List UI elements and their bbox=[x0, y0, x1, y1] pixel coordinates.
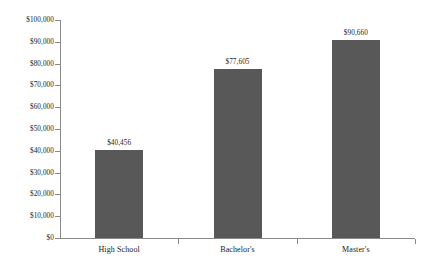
y-axis-tick-mark bbox=[55, 216, 60, 217]
y-axis-tick-label: $70,000 bbox=[30, 81, 54, 89]
y-axis-tick-mark bbox=[55, 64, 60, 65]
x-axis-separator-tick bbox=[178, 239, 179, 244]
y-axis-tick-label: $50,000 bbox=[30, 125, 54, 133]
y-axis-tick-mark bbox=[55, 129, 60, 130]
y-axis-tick-label: $20,000 bbox=[30, 190, 54, 198]
y-axis-tick-mark bbox=[55, 107, 60, 108]
x-axis-separator-tick bbox=[297, 239, 298, 244]
y-axis-line bbox=[60, 20, 61, 238]
y-axis-tick-label: $40,000 bbox=[30, 147, 54, 155]
y-axis-tick-mark bbox=[55, 173, 60, 174]
y-axis-tick-label: $80,000 bbox=[30, 60, 54, 68]
x-axis-category-label: High School bbox=[98, 245, 139, 254]
y-axis-tick-label: $0 bbox=[47, 234, 54, 242]
y-axis-tick-mark bbox=[55, 42, 60, 43]
y-axis-tick-label: $100,000 bbox=[26, 16, 54, 24]
y-axis-tick-mark bbox=[55, 20, 60, 21]
x-axis-category-label: Master's bbox=[342, 245, 370, 254]
x-axis-category-label: Bachelor's bbox=[220, 245, 254, 254]
bar-value-label: $40,456 bbox=[107, 139, 131, 147]
y-axis-tick-mark bbox=[55, 85, 60, 86]
y-axis-tick-label: $60,000 bbox=[30, 103, 54, 111]
bar-value-label: $77,605 bbox=[225, 58, 249, 66]
x-axis-line bbox=[60, 238, 415, 239]
bar-value-label: $90,660 bbox=[344, 29, 368, 37]
y-axis-tick-label: $90,000 bbox=[30, 38, 54, 46]
x-axis-separator-tick bbox=[415, 239, 416, 244]
bar-bachelor-s bbox=[214, 69, 262, 238]
bar-master-s bbox=[332, 40, 380, 238]
y-axis-tick-label: $10,000 bbox=[30, 212, 54, 220]
bar-chart: $0$10,000$20,000$30,000$40,000$50,000$60… bbox=[0, 0, 438, 271]
bar-high-school bbox=[95, 150, 143, 238]
y-axis-tick-mark bbox=[55, 151, 60, 152]
y-axis-tick-label: $30,000 bbox=[30, 169, 54, 177]
y-axis-tick-mark bbox=[55, 194, 60, 195]
